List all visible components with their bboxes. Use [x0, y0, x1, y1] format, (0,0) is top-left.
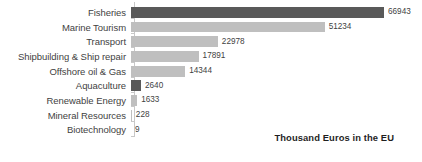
bar — [131, 95, 137, 106]
bar — [131, 110, 132, 121]
bar-row: Renewable Energy1633 — [0, 93, 422, 108]
bar-row: Marine Tourism51234 — [0, 20, 422, 35]
bar-row: Fisheries66943 — [0, 5, 422, 20]
axis-tick — [131, 136, 134, 137]
horizontal-bar-chart: Fisheries66943Marine Tourism51234Transpo… — [0, 0, 422, 162]
axis-tick — [131, 33, 134, 34]
category-label: Aquaculture — [0, 80, 131, 91]
bar-plot-area: 228 — [131, 108, 422, 123]
category-label: Offshore oil & Gas — [0, 66, 131, 77]
bar-value-label: 66943 — [388, 7, 411, 17]
axis-tick — [131, 47, 134, 48]
bar-plot-area: 17891 — [131, 49, 422, 64]
bar-plot-area: 22978 — [131, 34, 422, 49]
bar-value-label: 9 — [135, 125, 140, 135]
bar-value-label: 51234 — [329, 22, 352, 32]
bar — [131, 22, 325, 33]
bar — [131, 36, 218, 47]
chart-annotation: Thousand Euros in the EU — [274, 132, 394, 143]
bar-value-label: 22978 — [222, 37, 245, 47]
bar-plot-area: 1633 — [131, 93, 422, 108]
category-label: Fisheries — [0, 7, 131, 18]
category-label: Marine Tourism — [0, 22, 131, 33]
axis-tick — [131, 62, 134, 63]
bar-row: Offshore oil & Gas14344 — [0, 64, 422, 79]
bar-plot-area: 66943 — [131, 5, 422, 20]
bar-row: Shipbuilding & Ship repair17891 — [0, 49, 422, 64]
category-label: Mineral Resources — [0, 110, 131, 121]
category-label: Transport — [0, 36, 131, 47]
axis-tick — [131, 18, 134, 19]
bar — [131, 80, 141, 91]
bar-value-label: 1633 — [141, 95, 159, 105]
bar — [131, 7, 384, 18]
bar-row: Mineral Resources228 — [0, 108, 422, 123]
bar — [131, 51, 199, 62]
bar-plot-area: 51234 — [131, 20, 422, 35]
bar-value-label: 14344 — [189, 66, 212, 76]
axis-tick — [131, 106, 134, 107]
axis-tick — [131, 92, 134, 93]
category-label: Renewable Energy — [0, 95, 131, 106]
bar-row: Transport22978 — [0, 34, 422, 49]
bar-value-label: 2640 — [145, 81, 163, 91]
bar-plot-area: 14344 — [131, 64, 422, 79]
category-label: Shipbuilding & Ship repair — [0, 51, 131, 62]
bar-value-label: 17891 — [203, 51, 226, 61]
bar-plot-area: 2640 — [131, 79, 422, 94]
category-label: Biotechnology — [0, 124, 131, 135]
axis-tick — [131, 121, 134, 122]
bar-row: Aquaculture2640 — [0, 79, 422, 94]
axis-tick — [131, 77, 134, 78]
bar-value-label: 228 — [136, 110, 150, 120]
bar — [131, 66, 185, 77]
